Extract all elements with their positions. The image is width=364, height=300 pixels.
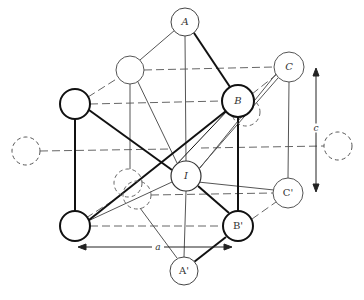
atom-dashed-left (12, 137, 40, 165)
label-b: B (234, 96, 241, 106)
crystal-lattice-diagram: A A' B B' C C' I c a (0, 0, 364, 300)
atom-upper-left (116, 56, 144, 84)
dimension-c-label: c (313, 124, 318, 133)
bold-bonds (75, 30, 238, 262)
dimension-a-label: a (155, 243, 160, 252)
atom-left-top (60, 89, 90, 119)
label-c: C (285, 62, 293, 72)
atom-left-bottom (60, 211, 90, 241)
lattice-svg (0, 0, 364, 300)
label-c-prime: C' (283, 188, 293, 198)
label-b-prime: B' (233, 221, 243, 231)
label-a: A (181, 17, 188, 27)
label-i: I (184, 171, 188, 181)
label-a-prime: A' (179, 266, 189, 276)
atom-dashed-lower-2 (123, 181, 151, 209)
atom-dashed-right (324, 132, 352, 160)
atom-dashed-lower-1 (114, 169, 142, 197)
